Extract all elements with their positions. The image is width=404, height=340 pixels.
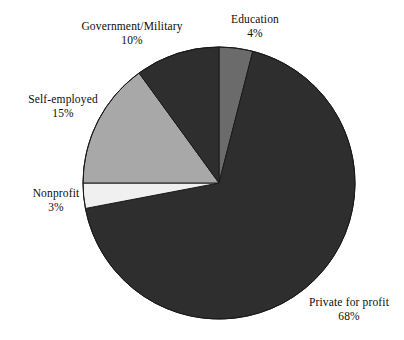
slice-label-nonprofit: Nonprofit 3%	[6, 187, 106, 214]
slice-label-name: Nonprofit	[6, 187, 106, 201]
slice-label-government-military: Government/Military 10%	[62, 20, 202, 47]
slice-label-value: 15%	[6, 107, 120, 121]
slice-label-value: 10%	[62, 34, 202, 48]
slice-label-name: Self-employed	[6, 93, 120, 107]
slice-label-name: Education	[203, 13, 307, 27]
pie-chart-svg	[0, 0, 404, 340]
pie-slices-group	[83, 47, 355, 319]
slice-label-self-employed: Self-employed 15%	[6, 93, 120, 120]
slice-label-value: 3%	[6, 201, 106, 215]
slice-label-education: Education 4%	[203, 13, 307, 40]
slice-label-name: Private for profit	[296, 296, 402, 310]
slice-label-value: 4%	[203, 27, 307, 41]
pie-chart: Government/Military 10% Education 4% Sel…	[0, 0, 404, 340]
slice-label-name: Government/Military	[62, 20, 202, 34]
slice-label-value: 68%	[296, 310, 402, 324]
slice-label-private-for-profit: Private for profit 68%	[296, 296, 402, 323]
